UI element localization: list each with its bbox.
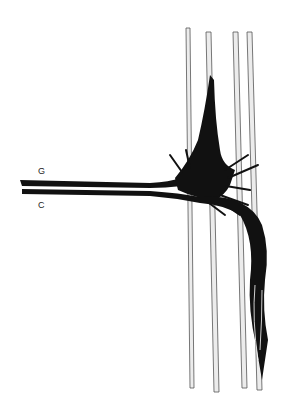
label-g: G — [38, 166, 45, 176]
axon-g — [20, 178, 182, 188]
fiber-1 — [186, 28, 194, 388]
label-c: C — [38, 200, 45, 210]
growth-cone — [175, 75, 235, 200]
axon-c — [22, 189, 200, 203]
